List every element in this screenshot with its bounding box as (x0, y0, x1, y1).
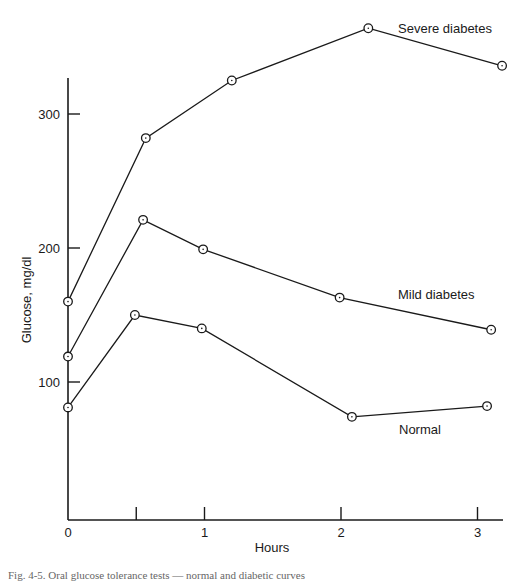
x-tick-label: 3 (474, 525, 481, 540)
data-point-center (486, 405, 488, 407)
series-label: Mild diabetes (398, 287, 475, 302)
series-severe-diabetes: Severe diabetes (64, 21, 507, 306)
data-point-center (351, 416, 353, 418)
series-line (68, 28, 502, 301)
figure-caption: Fig. 4-5. Oral glucose tolerance tests —… (8, 569, 305, 581)
x-tick-label: 1 (201, 525, 208, 540)
data-point-center (501, 65, 503, 67)
y-tick-label: 300 (38, 107, 60, 122)
series-label: Severe diabetes (398, 21, 492, 36)
data-point-center (201, 328, 203, 330)
series-label: Normal (399, 422, 441, 437)
x-axis-title: Hours (255, 540, 290, 555)
data-point-center (339, 297, 341, 299)
series-group: Severe diabetesMild diabetesNormal (64, 21, 507, 437)
y-tick-label: 200 (38, 241, 60, 256)
data-point-center (145, 137, 147, 139)
series-mild-diabetes: Mild diabetes (64, 216, 496, 361)
y-tick-label: 100 (38, 375, 60, 390)
data-point-center (231, 80, 233, 82)
data-point-center (67, 301, 69, 303)
series-normal: Normal (64, 311, 492, 437)
y-axis-title: Glucose, mg/dl (19, 257, 34, 344)
data-point-center (67, 356, 69, 358)
data-point-center (202, 249, 204, 251)
data-point-center (142, 219, 144, 221)
axes: 1002003000123 (38, 78, 503, 540)
x-tick-label: 0 (64, 525, 71, 540)
series-line (68, 315, 487, 417)
data-point-center (490, 329, 492, 331)
data-point-center (67, 407, 69, 409)
data-point-center (134, 314, 136, 316)
x-tick-label: 2 (337, 525, 344, 540)
data-point-center (368, 27, 370, 29)
